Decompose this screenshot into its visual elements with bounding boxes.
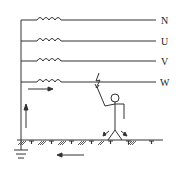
label-v: V xyxy=(161,56,169,67)
conductor-u xyxy=(21,39,156,42)
conductor-n xyxy=(21,18,156,21)
current-arrow-right-icon xyxy=(28,87,53,91)
shock-diagram: N U V W xyxy=(0,0,179,176)
earth-ground-icon xyxy=(14,142,28,158)
coil-icon xyxy=(37,59,61,62)
ground-hatching xyxy=(18,141,136,145)
coil-icon xyxy=(37,18,61,21)
coil-icon xyxy=(37,80,61,83)
label-w: W xyxy=(160,77,170,88)
label-n: N xyxy=(161,15,168,26)
coil-icon xyxy=(37,39,61,42)
conductor-v xyxy=(21,59,156,62)
conductor-w xyxy=(21,80,156,83)
person-icon xyxy=(97,87,127,140)
current-arrow-left-icon xyxy=(57,153,84,157)
label-u: U xyxy=(161,36,169,47)
current-arrow-up-icon xyxy=(24,104,28,128)
